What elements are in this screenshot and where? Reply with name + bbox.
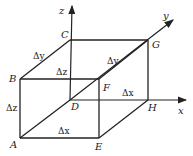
vertex-F: F bbox=[102, 82, 111, 93]
label-dz-center: Δz bbox=[56, 67, 67, 77]
vertex-C: C bbox=[61, 29, 69, 40]
z-axis bbox=[70, 6, 72, 100]
vertex-B: B bbox=[8, 73, 16, 84]
vertex-H: H bbox=[147, 102, 157, 113]
label-dy-right: Δy bbox=[107, 56, 119, 66]
label-dy-left: Δy bbox=[33, 51, 45, 61]
vertex-D: D bbox=[70, 101, 79, 112]
label-dz-left: Δz bbox=[6, 103, 17, 113]
label-dx-right: Δx bbox=[122, 88, 134, 98]
diagram-canvas: z y x C G B F D H A E Δy Δz Δy Δz Δx Δx bbox=[0, 0, 193, 156]
label-dx-bottom: Δx bbox=[58, 126, 70, 136]
vertex-A: A bbox=[9, 139, 17, 150]
y-axis-label: y bbox=[162, 10, 169, 21]
vertex-G: G bbox=[152, 39, 160, 50]
x-axis-label: x bbox=[178, 105, 184, 116]
box-diagram: z y x C G B F D H A E Δy Δz Δy Δz Δx Δx bbox=[0, 0, 193, 156]
z-axis-label: z bbox=[58, 5, 65, 16]
edge-EH bbox=[99, 100, 148, 138]
vertex-E: E bbox=[94, 141, 103, 152]
